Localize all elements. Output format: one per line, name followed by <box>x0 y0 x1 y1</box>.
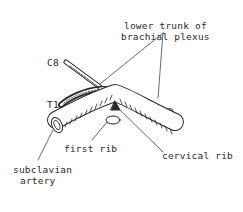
label-t1: T1 <box>47 99 59 110</box>
label-lower-trunk-line2: brachial plexus <box>121 31 210 42</box>
cervical-rib-diagram: lower trunk of brachial plexus C8 T1 fir… <box>0 0 243 212</box>
label-first-rib: first rib <box>64 143 117 154</box>
label-lower-trunk-line1: lower trunk of <box>124 20 207 31</box>
first-rib <box>106 116 120 124</box>
label-subclavian-line2: artery <box>20 175 56 186</box>
c8-nerve-root <box>66 62 104 90</box>
label-cervical-rib: cervical rib <box>162 150 233 161</box>
label-c8: C8 <box>47 57 59 68</box>
label-subclavian-line1: subclavian <box>13 164 72 175</box>
